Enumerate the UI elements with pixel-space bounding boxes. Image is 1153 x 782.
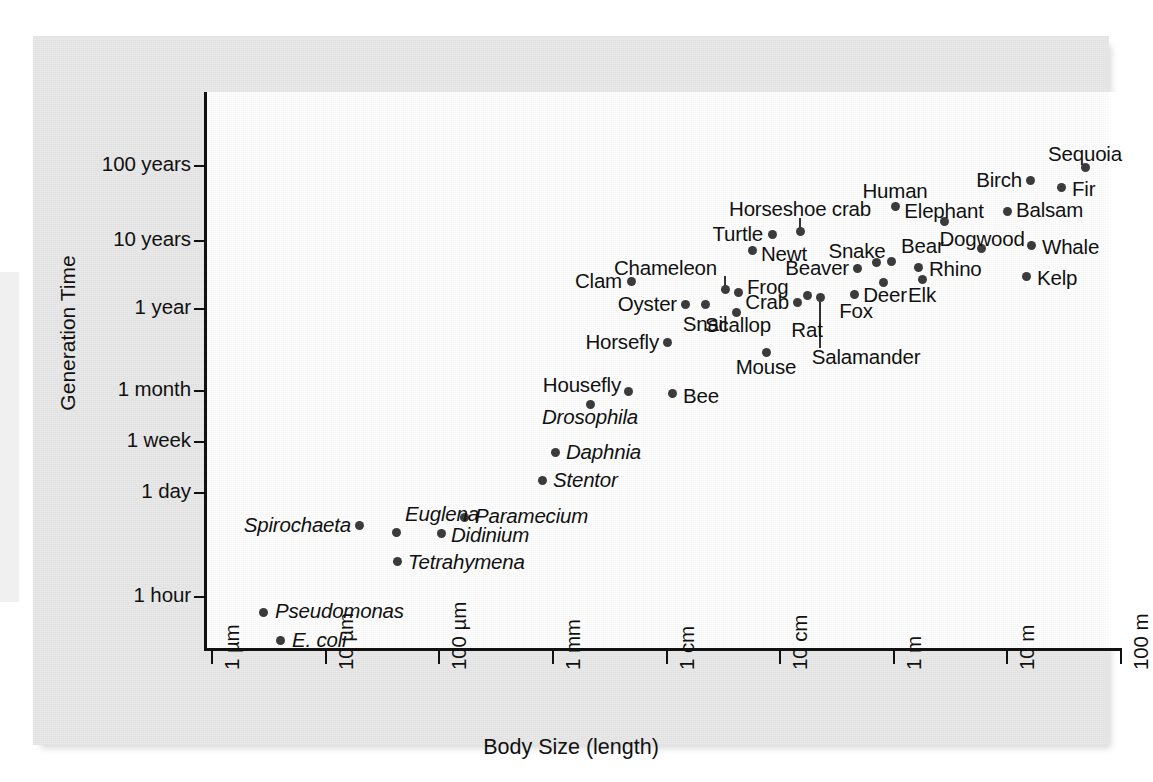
x-axis-tick-label: 1 µm — [220, 624, 244, 670]
x-axis-tick — [893, 651, 895, 664]
x-axis-tick — [211, 651, 213, 664]
data-point-newt — [748, 246, 757, 255]
data-point-e-coli — [276, 636, 285, 645]
data-label-rat: Rat — [791, 318, 822, 342]
data-label-drosophila: Drosophila — [542, 405, 638, 429]
data-label-balsam: Balsam — [1016, 198, 1083, 222]
y-axis-line — [204, 92, 207, 650]
y-axis-tick — [194, 596, 205, 598]
data-point-whale — [1027, 241, 1036, 250]
data-label-elk: Elk — [908, 283, 936, 307]
data-point-tetrahymena — [393, 557, 402, 566]
data-label-rhino: Rhino — [929, 257, 982, 281]
x-axis-title: Body Size (length) — [33, 735, 1109, 760]
data-label-pseudomonas: Pseudomonas — [275, 599, 404, 623]
data-point-euglena — [392, 528, 401, 537]
data-label-horseshoe-crab: Horseshoe crab — [729, 197, 871, 221]
data-label-birch: Birch — [976, 168, 1022, 192]
y-axis-tick-label: 1 year — [135, 295, 191, 319]
data-label-bear: Bear — [901, 234, 944, 258]
data-point-fir — [1057, 183, 1066, 192]
data-label-paramecium: Paramecium — [475, 504, 588, 528]
x-axis-tick — [552, 651, 554, 664]
x-axis-tick — [438, 651, 440, 664]
data-point-horsefly — [663, 338, 672, 347]
y-axis-tick — [194, 240, 205, 242]
data-label-horsefly: Horsefly — [585, 330, 659, 354]
page-edge-scan-artifact — [0, 272, 19, 602]
figure-panel: 100 years10 years1 year1 month1 week1 da… — [33, 36, 1109, 745]
x-axis-tick — [779, 651, 781, 664]
y-axis-tick-label: 10 years — [113, 227, 191, 251]
data-label-crab: Crab — [745, 290, 789, 314]
x-axis-tick — [325, 651, 327, 664]
x-axis-tick-label: 100 m — [1129, 614, 1153, 670]
data-point-stentor — [538, 476, 547, 485]
y-axis-tick — [194, 308, 205, 310]
data-point-fox — [850, 290, 859, 299]
data-point-rat — [803, 291, 812, 300]
data-point-snail — [701, 300, 710, 309]
data-point-spirochaeta — [355, 521, 364, 530]
data-point-kelp — [1022, 272, 1031, 281]
data-label-fir: Fir — [1072, 177, 1095, 201]
data-point-bear — [887, 257, 896, 266]
data-point-birch — [1026, 176, 1035, 185]
data-point-balsam — [1003, 207, 1012, 216]
data-label-snake: Snake — [828, 239, 885, 263]
data-label-tetrahymena: Tetrahymena — [408, 550, 525, 574]
data-label-fox: Fox — [839, 299, 873, 323]
data-label-bee: Bee — [683, 384, 719, 408]
x-axis-tick-label: 10 cm — [788, 615, 812, 670]
data-label-dogwood: Dogwood — [939, 227, 1024, 251]
data-point-salamander — [816, 293, 825, 302]
data-label-sequoia: Sequoia — [1048, 142, 1122, 166]
x-axis-tick-label: 1 m — [902, 636, 926, 670]
data-point-frog — [734, 288, 743, 297]
y-axis-title: Generation Time — [56, 223, 80, 443]
data-label-stentor: Stentor — [553, 468, 618, 492]
data-point-rhino — [914, 263, 923, 272]
data-label-spirochaeta: Spirochaeta — [244, 513, 351, 537]
data-point-didinium — [437, 529, 446, 538]
x-axis-tick — [666, 651, 668, 664]
data-label-elephant: Elephant — [904, 199, 983, 223]
x-axis-tick — [1006, 651, 1008, 664]
y-axis-tick — [194, 441, 205, 443]
data-label-whale: Whale — [1042, 235, 1099, 259]
data-label-mouse: Mouse — [736, 355, 797, 379]
data-label-housefly: Housefly — [543, 373, 621, 397]
y-axis-tick-label: 1 day — [141, 479, 191, 503]
y-axis-tick — [194, 390, 205, 392]
data-point-turtle — [768, 230, 777, 239]
data-label-e-coli: E. coli — [292, 628, 346, 652]
data-point-pseudomonas — [259, 608, 268, 617]
data-point-crab — [793, 298, 802, 307]
y-axis-tick-label: 1 hour — [133, 583, 191, 607]
x-axis-tick-label: 1 cm — [675, 626, 699, 670]
data-label-kelp: Kelp — [1037, 266, 1077, 290]
data-point-bee — [668, 389, 677, 398]
y-axis-tick-label: 100 years — [102, 152, 191, 176]
data-point-horseshoe-crab — [796, 227, 805, 236]
x-axis-tick-label: 100 µm — [447, 602, 471, 670]
data-point-daphnia — [551, 448, 560, 457]
data-label-daphnia: Daphnia — [566, 440, 641, 464]
x-axis-tick-label: 10 m — [1015, 625, 1039, 670]
y-axis-tick — [194, 492, 205, 494]
data-point-oyster — [681, 300, 690, 309]
y-axis-tick — [194, 165, 205, 167]
data-point-beaver — [853, 264, 862, 273]
y-axis-tick-label: 1 month — [118, 377, 191, 401]
data-label-scallop: Scallop — [705, 313, 771, 337]
data-point-housefly — [624, 387, 633, 396]
y-axis-tick-label: 1 week — [127, 428, 191, 452]
data-label-oyster: Oyster — [618, 292, 677, 316]
data-label-chameleon: Chameleon — [614, 256, 717, 280]
data-point-chameleon — [721, 285, 730, 294]
x-axis-tick-label: 1 mm — [561, 619, 585, 670]
x-axis-tick — [1120, 651, 1122, 664]
data-label-salamander: Salamander — [812, 345, 921, 369]
data-label-turtle: Turtle — [713, 222, 763, 246]
